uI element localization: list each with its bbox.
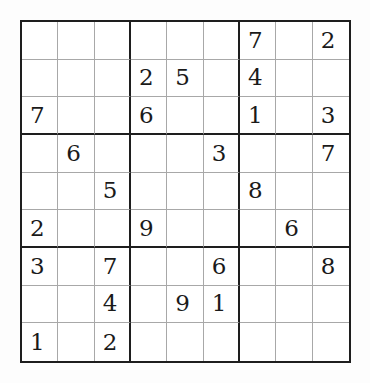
sudoku-cell-r9c8[interactable] (276, 323, 312, 361)
sudoku-cell-r7c3[interactable]: 7 (95, 248, 131, 286)
sudoku-cell-r2c6[interactable] (204, 60, 240, 98)
sudoku-cell-r9c9[interactable] (313, 323, 349, 361)
sudoku-cell-r7c7[interactable] (240, 248, 276, 286)
sudoku-cell-r9c5[interactable] (167, 323, 203, 361)
sudoku-cell-r9c3[interactable]: 2 (95, 323, 131, 361)
sudoku-cell-r4c2[interactable]: 6 (58, 135, 94, 173)
sudoku-cell-r6c6[interactable] (204, 210, 240, 248)
sudoku-cell-r7c1[interactable]: 3 (22, 248, 58, 286)
sudoku-cell-r2c4[interactable]: 2 (131, 60, 167, 98)
sudoku-cell-r5c2[interactable] (58, 173, 94, 211)
sudoku-cell-r1c6[interactable] (204, 22, 240, 60)
sudoku-cell-r5c7[interactable]: 8 (240, 173, 276, 211)
sudoku-cell-r2c8[interactable] (276, 60, 312, 98)
sudoku-cell-r6c8[interactable]: 6 (276, 210, 312, 248)
sudoku-cell-r8c9[interactable] (313, 286, 349, 324)
sudoku-cell-r6c2[interactable] (58, 210, 94, 248)
sudoku-cell-r3c2[interactable] (58, 97, 94, 135)
sudoku-cell-r7c9[interactable]: 8 (313, 248, 349, 286)
sudoku-board: 72254761363758296376849112 (20, 20, 351, 363)
sudoku-cell-r8c5[interactable]: 9 (167, 286, 203, 324)
sudoku-cell-r8c3[interactable]: 4 (95, 286, 131, 324)
sudoku-cell-r8c6[interactable]: 1 (204, 286, 240, 324)
sudoku-cell-r5c4[interactable] (131, 173, 167, 211)
sudoku-cell-r7c6[interactable]: 6 (204, 248, 240, 286)
sudoku-cell-r3c3[interactable] (95, 97, 131, 135)
sudoku-cell-r2c9[interactable] (313, 60, 349, 98)
sudoku-cell-r5c5[interactable] (167, 173, 203, 211)
sudoku-cell-r3c1[interactable]: 7 (22, 97, 58, 135)
sudoku-cell-r1c1[interactable] (22, 22, 58, 60)
sudoku-cell-r3c8[interactable] (276, 97, 312, 135)
sudoku-cell-r4c1[interactable] (22, 135, 58, 173)
sudoku-cell-r5c6[interactable] (204, 173, 240, 211)
sudoku-cell-r4c6[interactable]: 3 (204, 135, 240, 173)
sudoku-cell-r1c4[interactable] (131, 22, 167, 60)
sudoku-cell-r4c8[interactable] (276, 135, 312, 173)
sudoku-cell-r8c1[interactable] (22, 286, 58, 324)
sudoku-cell-r9c4[interactable] (131, 323, 167, 361)
sudoku-cell-r1c3[interactable] (95, 22, 131, 60)
sudoku-cell-r8c4[interactable] (131, 286, 167, 324)
sudoku-cell-r1c2[interactable] (58, 22, 94, 60)
sudoku-cell-r6c1[interactable]: 2 (22, 210, 58, 248)
sudoku-cell-r5c9[interactable] (313, 173, 349, 211)
sudoku-cell-r3c4[interactable]: 6 (131, 97, 167, 135)
sudoku-cell-r9c1[interactable]: 1 (22, 323, 58, 361)
sudoku-cell-r3c9[interactable]: 3 (313, 97, 349, 135)
sudoku-cell-r6c7[interactable] (240, 210, 276, 248)
sudoku-cell-r6c5[interactable] (167, 210, 203, 248)
sudoku-cell-r7c4[interactable] (131, 248, 167, 286)
sudoku-cell-r4c5[interactable] (167, 135, 203, 173)
sudoku-cell-r6c4[interactable]: 9 (131, 210, 167, 248)
sudoku-cell-r6c9[interactable] (313, 210, 349, 248)
sudoku-cell-r8c8[interactable] (276, 286, 312, 324)
sudoku-cell-r1c5[interactable] (167, 22, 203, 60)
sudoku-cell-r2c2[interactable] (58, 60, 94, 98)
sudoku-cell-r5c1[interactable] (22, 173, 58, 211)
sudoku-cell-r2c7[interactable]: 4 (240, 60, 276, 98)
sudoku-cell-r6c3[interactable] (95, 210, 131, 248)
sudoku-cell-r7c5[interactable] (167, 248, 203, 286)
sudoku-cell-r5c3[interactable]: 5 (95, 173, 131, 211)
sudoku-cell-r5c8[interactable] (276, 173, 312, 211)
sudoku-cell-r7c8[interactable] (276, 248, 312, 286)
sudoku-cell-r3c7[interactable]: 1 (240, 97, 276, 135)
sudoku-cell-r7c2[interactable] (58, 248, 94, 286)
sudoku-cell-r3c6[interactable] (204, 97, 240, 135)
sudoku-cell-r2c3[interactable] (95, 60, 131, 98)
sudoku-cell-r4c7[interactable] (240, 135, 276, 173)
sudoku-cell-r8c7[interactable] (240, 286, 276, 324)
sudoku-cell-r8c2[interactable] (58, 286, 94, 324)
sudoku-cell-r4c9[interactable]: 7 (313, 135, 349, 173)
sudoku-cell-r2c5[interactable]: 5 (167, 60, 203, 98)
sudoku-cell-r2c1[interactable] (22, 60, 58, 98)
sudoku-cell-r4c3[interactable] (95, 135, 131, 173)
sudoku-cell-r9c2[interactable] (58, 323, 94, 361)
sudoku-cell-r9c6[interactable] (204, 323, 240, 361)
sudoku-cell-r9c7[interactable] (240, 323, 276, 361)
sudoku-cell-r1c9[interactable]: 2 (313, 22, 349, 60)
sudoku-cell-r1c8[interactable] (276, 22, 312, 60)
sudoku-cell-r3c5[interactable] (167, 97, 203, 135)
sudoku-cell-r4c4[interactable] (131, 135, 167, 173)
sudoku-cell-r1c7[interactable]: 7 (240, 22, 276, 60)
